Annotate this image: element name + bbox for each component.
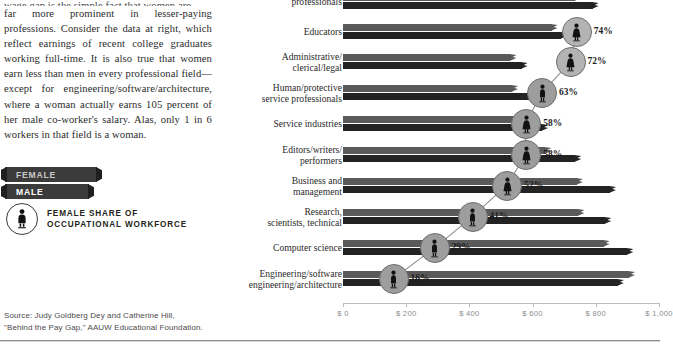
category-label: Educators [216, 26, 342, 37]
bar-male [343, 93, 539, 100]
bar-female [343, 24, 552, 31]
bar-row [343, 0, 659, 10]
category-axis-labels: professionalsEducatorsAdministrative/cle… [216, 0, 342, 300]
female-figure-glyph [565, 53, 576, 72]
category-label-line: professionals [216, 0, 342, 8]
category-label-line: Editors/writers/ [216, 144, 342, 155]
bar-female [343, 85, 512, 92]
category-label-line: clerical/legal [216, 62, 342, 73]
x-axis-tick-label: $ 400 [459, 309, 480, 318]
legend-female-label: FEMALE [16, 170, 56, 180]
x-axis-tick [659, 303, 660, 307]
male-figure-glyph [388, 270, 399, 289]
female-share-percent: 52% [524, 180, 543, 190]
female-share-marker [511, 109, 541, 139]
legend-key-line1: FEMALE SHARE OF [47, 208, 187, 220]
category-label: Administrative/clerical/legal [216, 51, 342, 74]
category-label-line: Human/protective [216, 82, 342, 93]
female-share-percent: 74% [594, 26, 613, 36]
bar-female [343, 54, 510, 61]
x-axis-tick-label: $ 200 [396, 309, 417, 318]
female-share-percent: 58% [543, 118, 562, 128]
x-axis-tick-label: $ 0 [337, 309, 348, 318]
male-figure-glyph [467, 208, 478, 227]
bar-row [343, 240, 659, 256]
female-share-marker [562, 17, 592, 47]
category-label: professionals [216, 0, 342, 8]
x-axis-tick-label: $ 1,000 [645, 309, 672, 318]
male-figure-glyph [429, 239, 440, 258]
category-label: Human/protectiveservice professionals [216, 82, 342, 105]
female-figure-icon [6, 203, 38, 235]
legend-male-label: MALE [16, 187, 44, 197]
female-share-percent: 58% [543, 149, 562, 159]
bar-male [343, 32, 561, 39]
category-label-line: engineering/architecture [216, 279, 342, 290]
category-label-line: Service industries [216, 118, 342, 129]
female-figure-glyph [571, 23, 582, 42]
article-body: wage gap is the simple fact that women a… [4, 0, 212, 142]
bar-female [343, 0, 575, 1]
female-share-percent: 63% [559, 87, 578, 97]
category-label: Research,scientists, technical [216, 206, 342, 229]
plot-area: 74%72%63%58%58%52%41%29%16% [343, 0, 660, 300]
category-label: Service industries [216, 118, 342, 129]
article-paragraph: far more prominent in lesser-paying prof… [4, 8, 212, 140]
bar-row [343, 54, 659, 70]
article-clipped-line: wage gap is the simple fact that women a… [4, 0, 212, 6]
female-figure-glyph [521, 115, 532, 134]
legend-female-ribbon: FEMALE [5, 167, 97, 182]
category-label-line: Administrative/ [216, 51, 342, 62]
bar-row [343, 85, 659, 101]
category-label-line: scientists, technical [216, 217, 342, 228]
x-axis-line [343, 303, 659, 304]
x-axis-tick [533, 303, 534, 307]
female-share-marker [527, 78, 557, 108]
male-figure-glyph [537, 84, 548, 103]
category-label-line: Educators [216, 26, 342, 37]
category-label-line: management [216, 186, 342, 197]
article-column: wage gap is the simple fact that women a… [0, 0, 216, 353]
female-figure-glyph [16, 209, 28, 229]
female-share-percent: 72% [588, 56, 607, 66]
category-label-line: Computer science [216, 242, 342, 253]
female-share-marker [511, 140, 541, 170]
female-share-percent: 16% [411, 273, 430, 283]
category-label-line: performers [216, 155, 342, 166]
female-share-marker [420, 233, 450, 263]
x-axis-tick [343, 303, 344, 307]
bar-female [343, 240, 604, 247]
legend-key-text: FEMALE SHARE OF OCCUPATIONAL WORKFORCE [47, 208, 187, 231]
bar-male [343, 186, 610, 193]
x-axis-tick-label: $ 800 [586, 309, 607, 318]
source-line-1: Source: Judy Goldberg Dey and Catherine … [4, 310, 244, 322]
x-axis-tick [406, 303, 407, 307]
bar-female [343, 116, 520, 123]
female-share-marker [492, 171, 522, 201]
bar-male [343, 2, 593, 9]
female-share-marker [458, 202, 488, 232]
x-axis-tick [596, 303, 597, 307]
bar-male [343, 248, 627, 255]
legend-key: FEMALE SHARE OF OCCUPATIONAL WORKFORCE [6, 203, 187, 235]
legend-ribbon: FEMALE MALE [5, 167, 103, 201]
category-label-line: Engineering/software [216, 268, 342, 279]
category-label: Business andmanagement [216, 175, 342, 198]
category-label: Engineering/softwareengineering/architec… [216, 268, 342, 291]
x-axis-tick-label: $ 600 [522, 309, 543, 318]
x-axis-tick [469, 303, 470, 307]
bar-row [343, 147, 659, 163]
legend-key-line2: OCCUPATIONAL WORKFORCE [47, 219, 187, 231]
category-label: Editors/writers/performers [216, 144, 342, 167]
bar-row [343, 116, 659, 132]
female-share-percent: 29% [452, 242, 471, 252]
legend-male-ribbon: MALE [5, 184, 89, 199]
category-label-line: Business and [216, 175, 342, 186]
female-share-marker [379, 264, 409, 294]
female-figure-glyph [521, 146, 532, 165]
bar-male [343, 62, 522, 69]
source-line-2: "Behind the Pay Gap," AAUW Educational F… [4, 322, 244, 334]
chart: professionalsEducatorsAdministrative/cle… [216, 0, 660, 353]
female-share-marker [556, 47, 586, 77]
category-label-line: service professionals [216, 93, 342, 104]
